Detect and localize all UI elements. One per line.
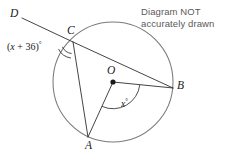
diagram-page: Diagram NOT accurately drawn D C B A O (… — [0, 0, 251, 156]
angle-label-at-o-degree: ° — [125, 97, 128, 105]
label-point-a: A — [85, 140, 92, 152]
label-point-c: C — [67, 25, 75, 37]
angle-label-at-c: (x + 36)° — [7, 41, 42, 52]
angle-label-at-c-degree: ° — [39, 40, 42, 48]
center-point-marker — [110, 79, 115, 84]
note-line-2: accurately drawn — [141, 18, 245, 30]
note-line-1: Diagram NOT — [141, 6, 245, 18]
angle-label-at-c-mid: + 36) — [15, 41, 39, 52]
line-segment-ca — [73, 42, 88, 137]
label-point-d: D — [10, 8, 18, 20]
angle-label-at-o: x° — [121, 98, 128, 110]
line-segment-ob — [113, 82, 173, 88]
label-point-o: O — [107, 65, 115, 77]
line-segment-dc — [22, 18, 73, 42]
line-segment-cb — [73, 42, 173, 88]
label-point-b: B — [177, 80, 184, 92]
not-accurately-drawn-note: Diagram NOT accurately drawn — [141, 6, 245, 29]
line-segment-oa — [88, 82, 113, 137]
